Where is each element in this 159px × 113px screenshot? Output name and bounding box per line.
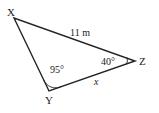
side-label-yz: x <box>93 76 99 87</box>
side-label-xz: 11 m <box>70 27 90 38</box>
angle-label-z: 40° <box>101 56 115 67</box>
angle-label-y: 95° <box>50 64 64 75</box>
vertex-label-y: Y <box>45 94 53 106</box>
vertex-label-z: Z <box>139 55 146 67</box>
vertex-label-x: X <box>7 6 15 18</box>
triangle-diagram: X Y Z 11 m x 95° 40° <box>0 0 159 113</box>
